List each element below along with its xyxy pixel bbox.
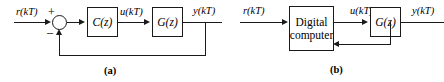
panel-b-plant-block: G(z) xyxy=(370,7,401,37)
panel-a-summing-junction xyxy=(52,15,67,30)
panel-a-input-signal-label: r(kT) xyxy=(16,6,38,17)
panel-b-input-arrowhead xyxy=(282,19,288,25)
panel-a-controller-block: C(z) xyxy=(87,7,118,37)
panel-b-control-arrowhead xyxy=(362,19,368,25)
panel-a-output-signal-label: y(kT) xyxy=(193,5,215,16)
panel-b-computer-label-line2: computer xyxy=(290,29,333,41)
panel-a-controller-label: C(z) xyxy=(93,16,113,28)
panel-a-input-wire xyxy=(14,22,45,23)
panel-a-feedback-wire-up xyxy=(59,34,60,56)
panel-a-control-arrowhead xyxy=(144,19,150,25)
panel-a-error-arrowhead xyxy=(79,19,85,25)
panel-a-plant-block: G(z) xyxy=(152,7,183,37)
panel-b-computer-label-line1: Digital xyxy=(296,16,328,28)
panel-a-feedback-arrowhead xyxy=(56,29,62,35)
panel-b-feedback-arrowhead xyxy=(333,41,339,47)
panel-a-control-wire xyxy=(118,22,145,23)
panel-b-digital-computer-block: Digital computer xyxy=(289,6,334,51)
panel-b-input-wire xyxy=(240,22,282,23)
panel-b-input-signal-label: r(kT) xyxy=(243,5,265,16)
panel-a-input-arrowhead xyxy=(45,19,51,25)
panel-b-control-wire xyxy=(334,22,363,23)
panel-b-output-signal-label: y(kT) xyxy=(412,5,434,16)
panel-a-closed-loop-diagram: r(kT) + – C(z) u(kT) G(z) y(kT) xyxy=(0,0,222,82)
block-diagram-figure: r(kT) + – C(z) u(kT) G(z) y(kT) xyxy=(0,0,444,82)
panel-a-feedback-wire-across xyxy=(59,55,206,56)
panel-a-plant-label: G(z) xyxy=(157,16,177,28)
panel-b-output-wire xyxy=(401,22,444,23)
panel-a-minus-sign: – xyxy=(47,26,53,38)
panel-b-closed-loop-diagram: r(kT) Digital computer u(kT) G(z) y(kT) … xyxy=(222,0,444,82)
panel-b-plant-label: G(z) xyxy=(375,16,395,28)
panel-b-feedback-wire-down xyxy=(390,22,391,45)
panel-b-feedback-wire-across xyxy=(339,44,391,45)
panel-b-caption: (b) xyxy=(330,64,343,75)
panel-a-feedback-wire-down xyxy=(205,22,206,56)
panel-a-controller-output-label: u(kT) xyxy=(120,6,143,17)
panel-a-output-wire xyxy=(183,22,222,23)
panel-a-caption: (a) xyxy=(104,65,116,76)
